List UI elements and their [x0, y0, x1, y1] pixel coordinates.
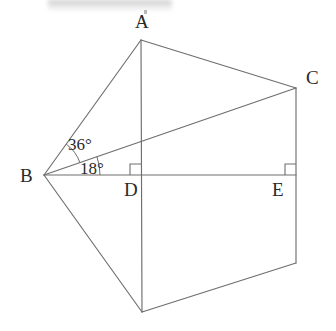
- segment-AC: [141, 40, 296, 88]
- angle-ABC-label: 36°: [68, 135, 92, 154]
- vertex-label-D: D: [124, 179, 138, 200]
- geometry-canvas: 36°18° ABCDE: [0, 0, 336, 331]
- segment-AF: [141, 40, 142, 312]
- angle-CBE-label: 18°: [80, 159, 104, 178]
- vertex-label-E: E: [272, 179, 284, 200]
- right-angle-at-D: [130, 164, 141, 175]
- vertex-label-A: A: [135, 11, 149, 32]
- vertex-label-B: B: [20, 165, 33, 186]
- vertex-label-C: C: [306, 67, 319, 88]
- segment-GF: [142, 263, 296, 312]
- right-angle-at-E: [285, 164, 296, 175]
- geometry-figure: 36°18° ABCDE: [0, 0, 336, 331]
- segment-BA: [44, 40, 141, 175]
- vertex-labels-group: ABCDE: [20, 11, 319, 200]
- right-angle-marks-group: [130, 164, 296, 175]
